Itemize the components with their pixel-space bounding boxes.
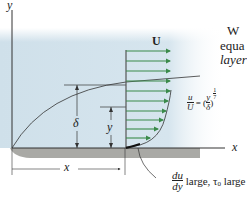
distance-x-label: x	[64, 160, 69, 175]
height-y-label: y	[107, 120, 112, 135]
boundary-layer-diagram: y x U δ y x u U = ( y δ ) 1 7 du dy larg…	[0, 0, 247, 199]
flat-plate	[10, 148, 200, 158]
y-axis-label: y	[7, 0, 12, 13]
fluid-region	[0, 28, 225, 148]
x-axis-label: x	[232, 140, 237, 155]
side-text-line-1: W	[227, 23, 239, 39]
profile-equation: u U = ( y δ ) 1 7	[187, 93, 216, 112]
free-stream-velocity-label: U	[152, 34, 161, 49]
side-text-line-3: layer	[220, 52, 247, 68]
wall-shear-annotation: du dy large, τ0 large	[172, 170, 246, 191]
delta-label: δ	[73, 116, 79, 131]
